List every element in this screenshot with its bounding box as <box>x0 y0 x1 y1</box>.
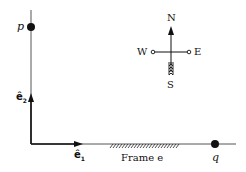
compass-west-label: W <box>137 47 147 57</box>
frame-diagram: p q ê2 ê1 Frame e N S W E <box>0 0 246 172</box>
north-arrowhead-icon <box>168 26 174 35</box>
e1-label: ê1 <box>74 150 85 162</box>
ground-hatching <box>110 144 179 148</box>
south-tail-feather-icon <box>169 62 173 75</box>
e2-arrowhead-icon <box>28 93 34 102</box>
point-q-dot <box>211 140 219 148</box>
east-marker-icon <box>187 50 191 54</box>
e2-label: ê2 <box>16 92 27 104</box>
compass-icon <box>151 26 191 75</box>
west-marker-icon <box>151 50 155 54</box>
point-p-label: p <box>17 21 24 32</box>
compass-south-label: S <box>167 80 174 90</box>
diagram-graphics <box>0 0 246 172</box>
point-q-label: q <box>212 152 219 163</box>
point-p-dot <box>27 23 35 31</box>
frame-label: Frame e <box>121 153 163 163</box>
e1-arrowhead-icon <box>74 141 83 147</box>
compass-north-label: N <box>167 13 176 23</box>
compass-east-label: E <box>194 47 201 57</box>
